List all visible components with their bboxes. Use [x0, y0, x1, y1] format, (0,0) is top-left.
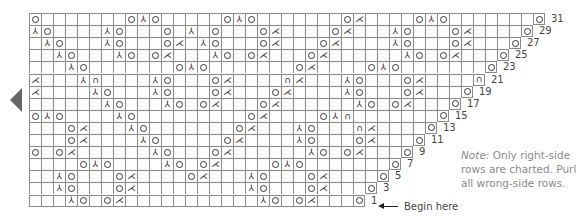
stitch-cell [221, 182, 233, 194]
stitch-cell [389, 146, 401, 158]
row-number: 3 [383, 182, 389, 194]
stitch-cell [281, 13, 293, 25]
stitch-cell [101, 182, 113, 194]
stitch-cell: ⅄ [89, 158, 101, 170]
yarn-over-icon [44, 28, 51, 35]
stitch-cell [269, 195, 281, 207]
stitch-cell [461, 13, 473, 25]
stitch-cell [197, 195, 209, 207]
stitch-cell [41, 134, 53, 146]
stitch-cell: ⋌ [77, 122, 89, 134]
stitch-cell [377, 158, 389, 170]
stitch-cell: ⅄ [101, 25, 113, 37]
yarn-over-icon [104, 89, 111, 96]
stitch-cell [89, 110, 101, 122]
stitch-cell [113, 61, 125, 73]
yarn-over-icon [116, 101, 123, 108]
stitch-cell [185, 49, 197, 61]
stitch-cell [449, 25, 461, 37]
stitch-cell: ⅄ [77, 74, 89, 86]
stitch-cell [425, 98, 437, 110]
stitch-cell [449, 37, 461, 49]
stitch-cell [149, 13, 161, 25]
yarn-over-icon [32, 149, 39, 156]
yarn-over-icon [164, 28, 171, 35]
stitch-cell [473, 13, 485, 25]
yarn-over-icon [164, 77, 171, 84]
yarn-over-icon [260, 185, 267, 192]
stitch-cell [89, 146, 101, 158]
yarn-over-icon [188, 173, 195, 180]
chart-row-9: ⋌⅄⋌⅄⋌ [29, 146, 413, 158]
stitch-cell [365, 13, 377, 25]
stitch-cell [149, 98, 161, 110]
stitch-cell [173, 146, 185, 158]
ssk-icon: ⅄ [117, 51, 123, 60]
ssk-icon: ⅄ [93, 88, 99, 97]
k2tog-icon: ⋌ [211, 160, 220, 169]
stitch-cell: ⅄ [389, 37, 401, 49]
stitch-cell [485, 49, 497, 61]
k2tog-icon: ⋌ [307, 196, 316, 205]
yarn-over-icon [212, 149, 219, 156]
yarn-over-icon [200, 64, 207, 71]
stitch-cell [125, 37, 137, 49]
yarn-over-icon [452, 40, 459, 47]
k2tog-icon: ⋌ [163, 51, 172, 60]
stitch-cell [353, 158, 365, 170]
stitch-cell [53, 25, 65, 37]
stitch-cell: ⅄ [185, 25, 197, 37]
stitch-cell: ⅄ [125, 122, 137, 134]
stitch-cell [77, 25, 89, 37]
stitch-cell: ⋌ [209, 158, 221, 170]
yarn-over-icon [368, 101, 375, 108]
row-number: 7 [407, 158, 413, 170]
stitch-cell [245, 146, 257, 158]
stitch-cell: ⅄ [113, 110, 125, 122]
stitch-cell [125, 86, 137, 98]
stitch-cell: ⋌ [305, 61, 317, 73]
stitch-cell [401, 74, 413, 86]
stitch-cell [29, 195, 41, 207]
stitch-cell [149, 170, 161, 182]
stitch-cell [377, 146, 389, 158]
stitch-cell [257, 86, 269, 98]
stitch-cell [245, 37, 257, 49]
stitch-cell [365, 61, 377, 73]
stitch-cell [233, 110, 245, 122]
stitch-cell: ⋌ [365, 122, 377, 134]
k2tog-icon: ⋌ [259, 51, 268, 60]
stitch-cell [341, 182, 353, 194]
stitch-cell [137, 37, 149, 49]
stitch-cell [293, 195, 305, 207]
yarn-over-icon [128, 16, 135, 23]
stitch-cell [53, 74, 65, 86]
stitch-cell: ⋌ [29, 86, 41, 98]
stitch-cell [29, 134, 41, 146]
stitch-cell [197, 61, 209, 73]
stitch-cell: ∩ [89, 74, 101, 86]
stitch-cell [401, 13, 413, 25]
stitch-cell [125, 146, 137, 158]
stitch-cell [113, 86, 125, 98]
stitch-cell [269, 61, 281, 73]
stitch-cell [197, 98, 209, 110]
k2tog-icon: ⋌ [319, 184, 328, 193]
yarn-over-icon [308, 137, 315, 144]
yarn-over-icon [440, 112, 447, 119]
stitch-cell [425, 86, 437, 98]
stitch-cell [137, 122, 149, 134]
yarn-over-icon [392, 161, 399, 168]
stitch-cell [377, 134, 389, 146]
stitch-cell [341, 37, 353, 49]
stitch-cell: ⋌ [245, 122, 257, 134]
chart-row-27: ⅄⅄⋌⅄⋌⋌⅄⋌ [29, 37, 521, 49]
stitch-cell [329, 49, 341, 61]
stitch-cell [173, 195, 185, 207]
stitch-cell [65, 49, 77, 61]
stitch-cell: ⅄ [425, 13, 437, 25]
stitch-cell [137, 61, 149, 73]
stitch-cell [233, 86, 245, 98]
stitch-cell [509, 37, 521, 49]
stitch-cell [137, 182, 149, 194]
